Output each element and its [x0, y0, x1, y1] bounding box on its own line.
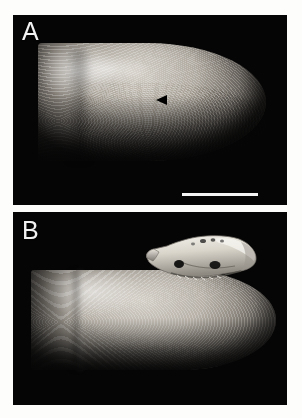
panel-a: A [13, 15, 287, 205]
scale-bar [182, 193, 258, 196]
panel-b-label: B [22, 218, 39, 243]
finger-bottom-shadow-a [38, 95, 266, 161]
panel-b: B [13, 212, 287, 405]
finger-body-b [31, 270, 276, 370]
panel-a-label: A [22, 19, 39, 44]
arrowhead-marker-icon [156, 95, 167, 105]
mammal-skull-specimen [141, 232, 261, 284]
figure-container: A B [0, 0, 302, 418]
finger-highlight-a [46, 49, 166, 89]
finger-bottom-shadow-b [31, 318, 276, 370]
